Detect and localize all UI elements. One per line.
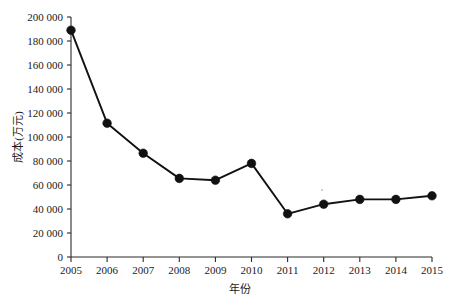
data-point-marker <box>67 26 76 35</box>
x-tick-label: 2010 <box>241 264 264 276</box>
data-point-marker <box>211 176 220 185</box>
x-tick-label: 2015 <box>421 264 444 276</box>
x-axis-tick-labels: 2005200620072008200920102011201220132014… <box>60 264 444 276</box>
y-tick-label: 40 000 <box>33 203 64 215</box>
data-point-marker <box>356 195 365 204</box>
artifact-speck <box>321 189 323 191</box>
x-tick-label: 2005 <box>60 264 83 276</box>
y-tick-label: 120 000 <box>27 107 63 119</box>
x-tick-label: 2011 <box>277 264 299 276</box>
y-tick-label: 80 000 <box>33 155 64 167</box>
y-tick-label: 160 000 <box>27 59 63 71</box>
data-point-marker <box>319 200 328 209</box>
y-tick-label: 60 000 <box>33 179 64 191</box>
x-tick-label: 2008 <box>168 264 191 276</box>
data-point-marker <box>283 210 292 219</box>
x-tick-label: 2012 <box>313 264 335 276</box>
data-series-line <box>71 30 432 214</box>
x-axis-title: 年份 <box>229 282 251 295</box>
chart-canvas: 020 00040 00060 00080 000100 000120 0001… <box>0 0 450 304</box>
data-point-markers <box>67 26 437 218</box>
data-point-marker <box>139 149 148 158</box>
y-axis-tick-labels: 020 00040 00060 00080 000100 000120 0001… <box>27 11 63 263</box>
y-tick-label: 200 000 <box>27 11 63 23</box>
y-axis-tick-marks <box>67 17 71 257</box>
y-tick-label: 0 <box>58 251 64 263</box>
y-tick-label: 20 000 <box>33 227 64 239</box>
x-tick-label: 2013 <box>349 264 372 276</box>
data-point-marker <box>428 192 437 201</box>
data-point-marker <box>392 195 401 204</box>
x-axis-tick-marks <box>71 257 432 262</box>
data-point-marker <box>175 174 184 183</box>
y-axis-title: 成本(万元) <box>11 111 25 163</box>
x-tick-label: 2007 <box>132 264 155 276</box>
y-tick-label: 180 000 <box>27 35 63 47</box>
data-point-marker <box>103 119 112 128</box>
x-tick-label: 2006 <box>96 264 119 276</box>
y-tick-label: 140 000 <box>27 83 63 95</box>
line-chart: 020 00040 00060 00080 000100 000120 0001… <box>0 0 450 304</box>
x-tick-label: 2014 <box>385 264 408 276</box>
y-tick-label: 100 000 <box>27 131 63 143</box>
data-point-marker <box>247 159 256 168</box>
x-tick-label: 2009 <box>204 264 227 276</box>
